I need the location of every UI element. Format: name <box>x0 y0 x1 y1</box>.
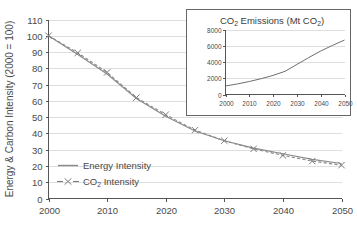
chart-figure: 0102030405060708090100110 20002010202020… <box>0 0 357 245</box>
main-y-tick-label: 0 <box>37 194 42 205</box>
chart-svg: 0102030405060708090100110 20002010202020… <box>0 0 357 245</box>
inset-title-prefix: CO <box>220 15 234 26</box>
legend-label-energy-intensity: Energy Intensity <box>83 160 151 171</box>
inset-x-tick-label: 2010 <box>242 100 257 107</box>
inset-x-tick-label: 2020 <box>266 100 281 107</box>
main-y-tick-label: 70 <box>32 80 43 91</box>
inset-title-suffix: ) <box>321 15 324 26</box>
inset-plot: CO2 Emissions (Mt CO2) 02000400060008000… <box>187 10 354 116</box>
main-y-tick-label: 110 <box>27 15 42 26</box>
legend-label-co2-intensity: CO2 Intensity <box>83 176 139 188</box>
main-x-tick-label: 2040 <box>273 205 294 216</box>
inset-y-tick-label: 2000 <box>207 75 222 82</box>
main-y-tick-label: 40 <box>32 128 43 139</box>
inset-y-tick-label: 0 <box>218 92 222 99</box>
main-x-tick-label: 2020 <box>156 205 177 216</box>
inset-x-tick-label: 2000 <box>219 100 234 107</box>
main-y-axis-title: Energy & Carbon Intensity (2000 = 100) <box>4 21 15 198</box>
main-y-tick-label: 50 <box>32 112 43 123</box>
main-y-tick-label: 60 <box>32 96 43 107</box>
main-x-tick-label: 2000 <box>39 205 60 216</box>
inset-x-tick-label: 2030 <box>290 100 305 107</box>
inset-title-middle: Emissions (Mt CO <box>238 15 317 26</box>
main-y-tick-label: 30 <box>32 145 43 156</box>
main-y-tick-label: 80 <box>32 63 43 74</box>
inset-x-tick-label: 2050 <box>338 100 353 107</box>
main-y-tick-label: 100 <box>27 31 43 42</box>
legend-co2-suffix: Intensity <box>101 176 139 187</box>
main-x-tick-label: 2030 <box>214 205 235 216</box>
inset-y-tick-label: 8000 <box>207 27 222 34</box>
main-x-tick-label: 2010 <box>97 205 118 216</box>
main-y-tick-label: 90 <box>32 47 43 58</box>
inset-y-tick-label: 6000 <box>207 43 222 50</box>
legend-co2-prefix: CO <box>83 176 97 187</box>
main-y-tick-label: 10 <box>32 177 43 188</box>
inset-y-tick-label: 4000 <box>207 59 222 66</box>
inset-x-tick-label: 2040 <box>314 100 329 107</box>
main-y-tick-label: 20 <box>32 161 43 172</box>
main-x-tick-label: 2050 <box>332 205 353 216</box>
